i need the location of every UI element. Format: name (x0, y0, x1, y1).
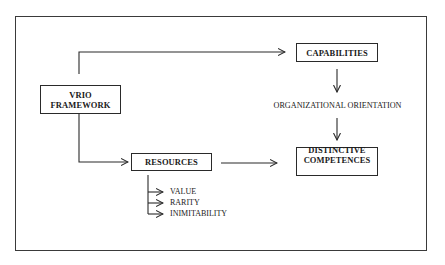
resources-label: RESOURCES (145, 157, 198, 167)
attribute-value: VALUE (170, 187, 196, 196)
vrio-line1: VRIO (51, 90, 111, 100)
arrow-vrio-to-resources (79, 114, 128, 162)
arrow-vrio-to-capabilities (79, 52, 285, 74)
distinctive-line2: COMPETENCES (304, 155, 371, 165)
attribute-rarity: RARITY (170, 198, 200, 207)
organizational-orientation-label: ORGANIZATIONAL ORIENTATION (264, 101, 411, 110)
distinctive-line1: DISTINCTIVE (304, 145, 371, 155)
node-vrio-framework: VRIO FRAMEWORK (40, 85, 121, 114)
node-resources: RESOURCES (131, 153, 212, 171)
vrio-line2: FRAMEWORK (51, 100, 111, 110)
connector-lines (0, 0, 445, 265)
node-distinctive-competences: DISTINCTIVE COMPETENCES (296, 147, 378, 176)
node-capabilities: CAPABILITIES (296, 43, 378, 62)
attribute-inimitability: INIMITABILITY (170, 209, 227, 218)
capabilities-label: CAPABILITIES (306, 48, 368, 58)
